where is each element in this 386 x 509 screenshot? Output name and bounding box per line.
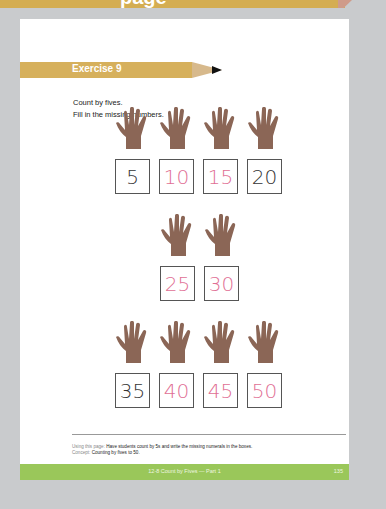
note-using-text: Have students count by 5s and write the …	[106, 444, 252, 449]
top-banner-text: page	[120, 0, 167, 8]
count-cell: 40	[159, 321, 194, 408]
workbook-page: Exercise 9 Count by fives. Fill in the m…	[20, 19, 349, 464]
hand-icon	[159, 107, 195, 149]
number-box[interactable]: 50	[247, 373, 282, 408]
hand-icon	[203, 321, 239, 363]
hand-icon	[159, 321, 195, 363]
teacher-note: Using this page: Have students count by …	[72, 444, 252, 456]
hands-row-3: 35 40 45 50	[115, 321, 291, 408]
number-box[interactable]: 25	[160, 266, 195, 301]
number-box[interactable]: 35	[115, 373, 150, 408]
number-value: 20	[252, 165, 277, 189]
count-cell: 15	[203, 107, 238, 194]
hand-icon	[160, 214, 196, 256]
count-cell: 5	[115, 107, 150, 194]
hand-icon	[247, 107, 283, 149]
number-box[interactable]: 45	[203, 373, 238, 408]
pencil-body: Exercise 9	[20, 62, 192, 78]
number-box[interactable]: 5	[115, 159, 150, 194]
hand-icon	[115, 107, 151, 149]
hands-row-2: 25 30	[160, 214, 248, 301]
number-value: 15	[208, 165, 233, 189]
number-value: 50	[252, 379, 277, 403]
note-concept-line: Concept: Counting by fives to 50.	[72, 450, 252, 456]
count-cell: 35	[115, 321, 150, 408]
count-cell: 45	[203, 321, 238, 408]
hand-icon	[203, 107, 239, 149]
number-value: 10	[164, 165, 189, 189]
exercise-pencil-banner: Exercise 9	[20, 62, 230, 78]
count-cell: 50	[247, 321, 282, 408]
hand-icon	[115, 321, 151, 363]
pencil-lead-icon	[212, 66, 222, 74]
hand-icon	[204, 214, 240, 256]
divider	[72, 434, 346, 435]
number-value: 45	[208, 379, 233, 403]
number-value: 5	[126, 165, 139, 189]
number-box[interactable]: 30	[204, 266, 239, 301]
number-value: 30	[209, 272, 234, 296]
number-value: 35	[120, 379, 145, 403]
count-cell: 20	[247, 107, 282, 194]
number-box[interactable]: 15	[203, 159, 238, 194]
note-concept-text: Counting by fives to 50.	[92, 450, 140, 455]
count-cell: 25	[160, 214, 195, 301]
number-box[interactable]: 20	[247, 159, 282, 194]
top-banner-tip	[338, 0, 352, 8]
count-cell: 10	[159, 107, 194, 194]
exercise-title: Exercise 9	[72, 63, 122, 74]
note-using-label: Using this page:	[72, 444, 105, 449]
number-box[interactable]: 10	[159, 159, 194, 194]
hands-row-1: 5 10 15 20	[115, 107, 291, 194]
hand-icon	[247, 321, 283, 363]
number-box[interactable]: 40	[159, 373, 194, 408]
count-cell: 30	[204, 214, 239, 301]
number-value: 25	[165, 272, 190, 296]
top-banner: page	[0, 0, 345, 8]
note-concept-label: Concept:	[72, 450, 90, 455]
footer-page-number: 135	[334, 468, 343, 474]
page-footer: 12-8 Count by Fives — Part 1 135	[20, 464, 349, 480]
footer-lesson-title: 12-8 Count by Fives — Part 1	[20, 468, 349, 474]
number-value: 40	[164, 379, 189, 403]
